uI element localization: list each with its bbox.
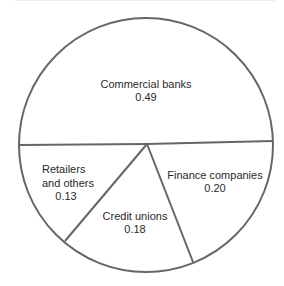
slice-name: Credit unions bbox=[95, 210, 175, 223]
slice-label-commercial-banks: Commercial banks 0.49 bbox=[96, 78, 196, 104]
slice-value: 0.18 bbox=[95, 223, 175, 236]
spoke-commercial-retailers bbox=[19, 144, 147, 145]
slice-name-line2: and others bbox=[38, 177, 94, 191]
slice-name: Finance companies bbox=[165, 169, 265, 182]
slice-value: 0.49 bbox=[96, 91, 196, 104]
slice-value: 0.20 bbox=[165, 182, 265, 195]
slice-name: Retailers bbox=[38, 163, 94, 177]
slice-value: 0.13 bbox=[38, 190, 94, 204]
pie-chart bbox=[0, 0, 284, 286]
slice-name: Commercial banks bbox=[96, 78, 196, 91]
slice-label-retailers-and-others: Retailers and others 0.13 bbox=[38, 163, 94, 204]
slice-label-credit-unions: Credit unions 0.18 bbox=[95, 210, 175, 236]
slice-label-finance-companies: Finance companies 0.20 bbox=[165, 169, 265, 195]
